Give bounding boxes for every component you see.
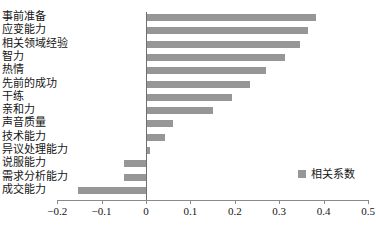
chart-legend: 相关系数: [298, 168, 355, 180]
bar: [146, 94, 232, 101]
bar: [146, 41, 300, 48]
bar: [124, 160, 146, 167]
axis-tick-label: 0.5: [348, 205, 376, 218]
axis-tick: [190, 200, 191, 204]
bar: [146, 67, 266, 74]
legend-swatch-icon: [298, 170, 306, 178]
bar: [124, 174, 146, 181]
bar: [146, 54, 285, 61]
axis-tick-label: −0.1: [82, 205, 122, 218]
axis-tick-label: 0: [126, 205, 166, 218]
axis-tick: [102, 200, 103, 204]
bar: [146, 107, 213, 114]
axis-tick: [57, 200, 58, 204]
axis-tick-label: 0.4: [304, 205, 344, 218]
axis-tick: [368, 200, 369, 204]
value-axis-line: [57, 200, 368, 201]
axis-tick: [279, 200, 280, 204]
bar: [146, 27, 308, 34]
bar: [78, 187, 146, 194]
axis-tick-label: 0.1: [170, 205, 210, 218]
axis-tick: [324, 200, 325, 204]
bar: [146, 81, 250, 88]
bar: [146, 14, 316, 21]
axis-tick-label: 0.3: [259, 205, 299, 218]
zero-baseline: [146, 12, 147, 201]
axis-tick-label: 0.2: [215, 205, 255, 218]
legend-label: 相关系数: [311, 168, 355, 180]
bar: [146, 120, 173, 127]
bar: [146, 134, 165, 141]
axis-tick-label: −0.2: [37, 205, 77, 218]
axis-tick: [146, 200, 147, 204]
correlation-bar-chart: 事前准备应变能力相关领域经验智力热情先前的成功干练亲和力声音质量技术能力异议处理…: [0, 0, 376, 236]
axis-tick: [235, 200, 236, 204]
